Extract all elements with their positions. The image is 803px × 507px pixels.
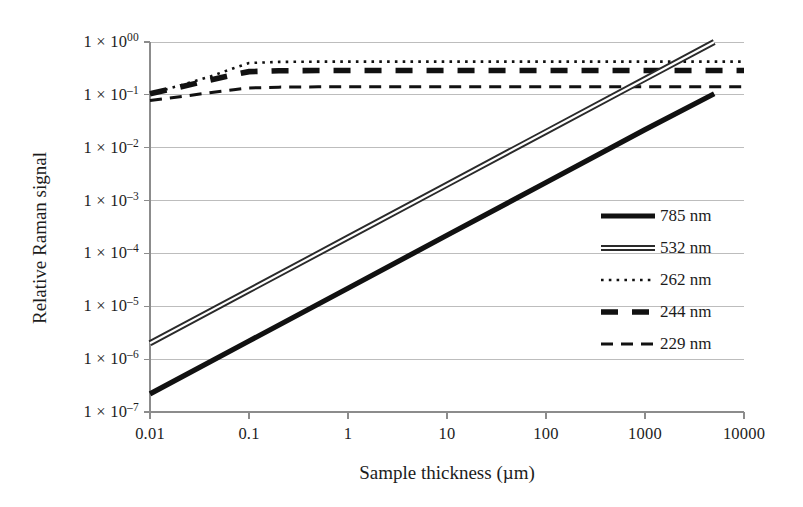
legend-line-swatch <box>601 305 655 319</box>
y-tick-mantissa: 1 × 10 <box>84 191 128 210</box>
legend-line-swatch <box>601 337 655 351</box>
y-tick-mantissa: 1 × 10 <box>84 85 128 104</box>
y-axis-tick-label: 1 × 10–1 <box>0 85 139 105</box>
legend-item-label: 785 nm <box>660 206 711 226</box>
x-axis-tick-label: 10000 <box>723 424 765 444</box>
legend-item[interactable]: 785 nm <box>601 200 751 232</box>
x-axis-tick-label: 1000 <box>628 424 662 444</box>
y-tick-exponent: –1 <box>127 83 139 95</box>
y-tick-mantissa: 1 × 10 <box>84 138 128 157</box>
x-axis-tick-label: 1 <box>344 424 352 444</box>
y-tick-exponent: 00 <box>127 31 139 43</box>
y-tick-exponent: –5 <box>127 295 139 307</box>
x-axis-tick-label: 0.01 <box>135 424 165 444</box>
legend-item[interactable]: 244 nm <box>601 296 751 328</box>
legend-item[interactable]: 262 nm <box>601 264 751 296</box>
x-axis-tick-label: 0.1 <box>238 424 259 444</box>
y-tick-exponent: –4 <box>127 242 139 254</box>
y-axis-tick-label: 1 × 10–2 <box>0 138 139 158</box>
x-axis-tick-label: 10 <box>439 424 456 444</box>
legend-line-swatch <box>601 241 655 255</box>
y-tick-exponent: –6 <box>127 348 139 360</box>
x-axis-title: Sample thickness (µm) <box>359 462 535 484</box>
legend-item-label: 244 nm <box>660 302 711 322</box>
y-tick-exponent: –2 <box>127 136 139 148</box>
y-axis-tick-label: 1 × 10–7 <box>0 402 139 422</box>
y-tick-mantissa: 1 × 10 <box>84 349 128 368</box>
legend-item-label: 229 nm <box>660 334 711 354</box>
legend-item-label: 532 nm <box>660 238 711 258</box>
y-axis-tick-label: 1 × 1000 <box>0 32 139 52</box>
legend-item[interactable]: 229 nm <box>601 328 751 360</box>
y-tick-mantissa: 1 × 10 <box>84 402 128 421</box>
y-axis-tick-label: 1 × 10–6 <box>0 349 139 369</box>
y-tick-mantissa: 1 × 10 <box>84 32 128 51</box>
legend-line-swatch <box>601 273 655 287</box>
y-axis-tick-label: 1 × 10–5 <box>0 296 139 316</box>
y-tick-mantissa: 1 × 10 <box>84 296 128 315</box>
legend-item-label: 262 nm <box>660 270 711 290</box>
y-axis-tick-label: 1 × 10–3 <box>0 191 139 211</box>
legend-line-swatch <box>601 209 655 223</box>
y-tick-exponent: –7 <box>127 401 139 413</box>
y-axis-title: Relative Raman signal <box>29 138 51 338</box>
raman-signal-chart: 1 × 10001 × 10–11 × 10–21 × 10–31 × 10–4… <box>0 0 803 507</box>
x-axis-tick-label: 100 <box>533 424 558 444</box>
y-axis-tick-label: 1 × 10–4 <box>0 243 139 263</box>
y-tick-exponent: –3 <box>127 189 139 201</box>
legend-item[interactable]: 532 nm <box>601 232 751 264</box>
chart-legend: 785 nm532 nm262 nm244 nm229 nm <box>601 200 751 360</box>
y-tick-mantissa: 1 × 10 <box>84 243 128 262</box>
